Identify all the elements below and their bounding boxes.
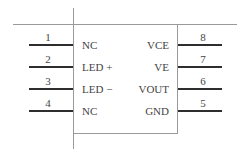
top-guide-line: [13, 24, 237, 25]
pin-number: 5: [193, 97, 213, 109]
pin-number: 3: [38, 75, 58, 87]
pin-signal-label: LED +: [82, 61, 112, 73]
pin-lead: [178, 110, 222, 112]
pin-lead: [178, 44, 222, 46]
pin-signal-label: VOUT: [109, 83, 169, 95]
pin-signal-label: NC: [82, 105, 97, 117]
pin-signal-label: VE: [109, 61, 169, 73]
pin-lead: [29, 88, 73, 90]
pin-lead: [29, 44, 73, 46]
pin-signal-label: VCE: [109, 39, 169, 51]
pin-number: 7: [193, 53, 213, 65]
chip-body-right-edge: [177, 24, 178, 134]
pin-lead: [29, 110, 73, 112]
pin-number: 8: [193, 31, 213, 43]
pin-lead: [178, 88, 222, 90]
pin-lead: [178, 66, 222, 68]
pin-number: 1: [38, 31, 58, 43]
pin-lead: [29, 66, 73, 68]
pin-number: 4: [38, 97, 58, 109]
pin-number: 2: [38, 53, 58, 65]
pin-number: 6: [193, 75, 213, 87]
chip-body-bottom-edge: [73, 133, 178, 134]
pin-signal-label: GND: [109, 105, 169, 117]
pin-signal-label: LED −: [82, 83, 112, 95]
left-guide-line: [73, 8, 74, 149]
pin-signal-label: NC: [82, 39, 97, 51]
